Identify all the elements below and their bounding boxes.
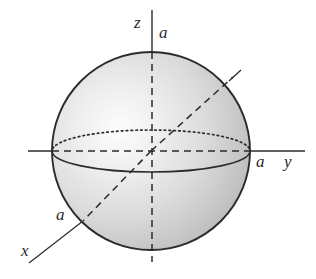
z-axis-tick-label-a: a — [159, 24, 168, 41]
sphere-diagram-svg — [0, 0, 316, 279]
y-axis-tick-label-a: a — [256, 153, 265, 170]
figure-canvas: z a a y a x — [0, 0, 316, 279]
z-axis-label: z — [134, 14, 141, 31]
x-axis-tick-label-a: a — [56, 206, 65, 223]
x-axis-line — [29, 221, 83, 263]
radius-ray-tick — [229, 70, 241, 81]
x-axis-label: x — [21, 242, 29, 259]
y-axis-label: y — [284, 153, 292, 170]
